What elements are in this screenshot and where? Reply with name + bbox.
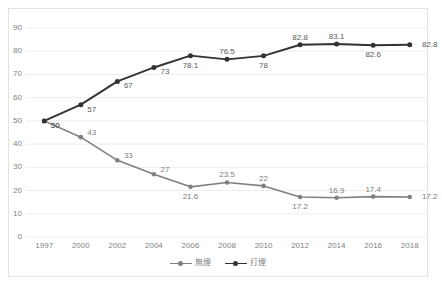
x-axis-tick-label: 2014 (320, 241, 354, 251)
legend-marker-icon (225, 258, 247, 268)
data-label: 27 (150, 165, 180, 174)
data-label: 21.6 (175, 192, 205, 201)
y-axis-tick-label: 20 (2, 186, 22, 196)
data-label: 82.6 (358, 50, 388, 59)
legend-dot (178, 261, 183, 266)
data-label: 83.1 (322, 32, 352, 41)
data-label: 82.8 (415, 40, 442, 49)
data-label: 17.2 (415, 192, 442, 201)
y-axis-tick-label: 80 (2, 46, 22, 56)
data-label: 16.9 (322, 186, 352, 195)
x-axis-tick-label: 2012 (283, 241, 317, 251)
chart-legend: 無煙打煙 (0, 258, 436, 268)
data-label: 23.5 (212, 170, 242, 179)
x-axis-tick-label: 2016 (356, 241, 390, 251)
data-label: 67 (113, 81, 143, 90)
data-label: 76.5 (212, 47, 242, 56)
y-axis-tick-label: 40 (2, 139, 22, 149)
y-axis-tick-label: 60 (2, 93, 22, 103)
data-label: 17.4 (358, 185, 388, 194)
data-label: 43 (77, 128, 107, 137)
y-axis-tick-label: 0 (2, 232, 22, 242)
y-axis-tick-label: 90 (2, 23, 22, 33)
y-axis-tick-label: 70 (2, 69, 22, 79)
x-axis-tick-label: 2008 (210, 241, 244, 251)
x-axis-tick-label: 2004 (137, 241, 171, 251)
x-axis-tick-label: 2018 (393, 241, 427, 251)
data-label: 33 (113, 151, 143, 160)
x-axis-tick-label: 1997 (27, 241, 61, 251)
y-axis-tick-label: 30 (2, 162, 22, 172)
legend-item-0[interactable]: 無煙 (170, 258, 211, 268)
y-axis-tick-label: 50 (2, 116, 22, 126)
legend-item-1[interactable]: 打煙 (225, 258, 266, 268)
x-axis-tick-label: 2000 (64, 241, 98, 251)
data-label: 57 (77, 105, 107, 114)
x-axis-tick-label: 2010 (247, 241, 281, 251)
legend-label: 無煙 (195, 258, 211, 268)
legend-dot (233, 261, 238, 266)
data-label: 78 (249, 61, 279, 70)
data-label: 17.2 (285, 202, 315, 211)
data-label: 22 (249, 174, 279, 183)
data-label: 50 (40, 121, 70, 130)
x-axis-tick-label: 2002 (100, 241, 134, 251)
data-label: 82.8 (285, 33, 315, 42)
x-axis-tick-label: 2006 (173, 241, 207, 251)
legend-marker-icon (170, 258, 192, 268)
data-label: 78.1 (175, 61, 205, 70)
y-axis-tick-label: 10 (2, 209, 22, 219)
legend-label: 打煙 (250, 258, 266, 268)
